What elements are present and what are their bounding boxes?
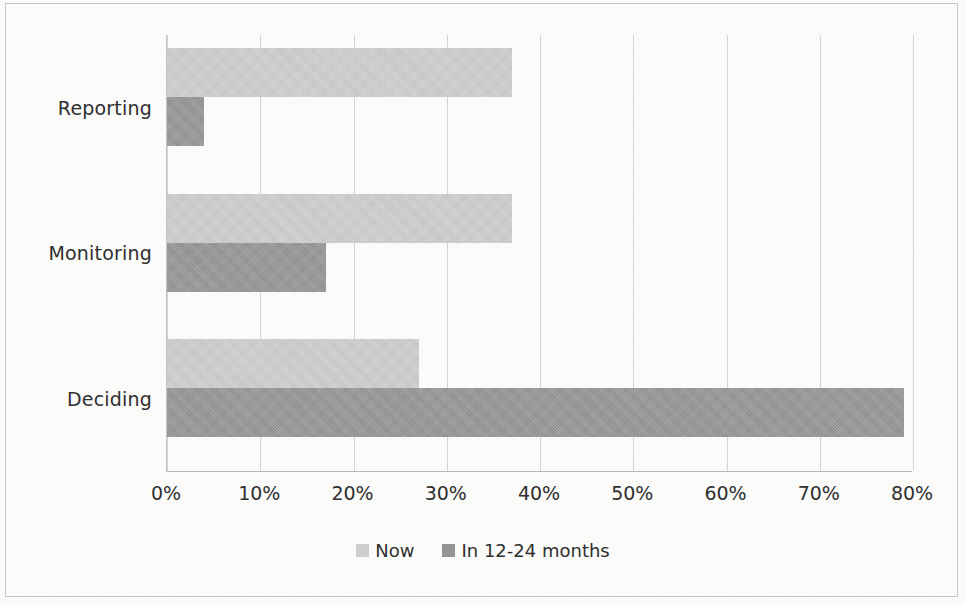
x-tick-label: 20% [318,482,388,504]
category-label-monitoring: Monitoring [2,242,152,264]
x-tick-label: 60% [691,482,761,504]
x-tick-label: 50% [597,482,667,504]
bar-reporting-now [167,48,512,97]
legend-label: In 12-24 months [461,540,609,561]
bar-deciding-future [167,388,904,437]
category-axis: Reporting Monitoring Deciding [0,35,152,472]
plot-area [166,35,912,472]
bar-monitoring-now [167,194,512,243]
bar-chart-figure: Reporting Monitoring Deciding 0%10%20%30… [0,0,966,605]
category-label-reporting: Reporting [2,97,152,119]
bar-monitoring-future [167,243,326,292]
bar-group-monitoring [167,181,912,327]
x-tick-label: 70% [784,482,854,504]
legend-item-now: Now [356,540,414,561]
value-axis: 0%10%20%30%40%50%60%70%80% [166,482,912,512]
x-tick-label: 40% [504,482,574,504]
bar-reporting-future [167,97,204,146]
bar-group-deciding [167,326,912,472]
legend-label: Now [375,540,414,561]
x-tick-label: 30% [411,482,481,504]
legend-swatch-icon [356,544,369,557]
gridline-80 [913,35,914,471]
chart-legend: NowIn 12-24 months [0,540,966,561]
category-label-deciding: Deciding [2,388,152,410]
x-tick-label: 0% [131,482,201,504]
legend-swatch-icon [442,544,455,557]
bar-deciding-now [167,339,419,388]
x-tick-label: 10% [224,482,294,504]
legend-item-future: In 12-24 months [442,540,609,561]
x-tick-label: 80% [877,482,947,504]
bar-group-reporting [167,35,912,181]
